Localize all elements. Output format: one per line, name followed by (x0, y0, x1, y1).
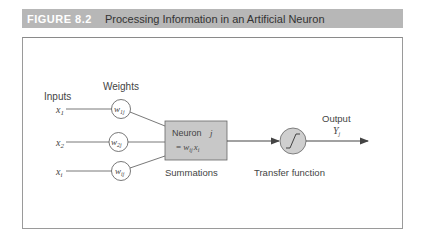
input-x2: x2 (55, 137, 64, 150)
input-xi: xi (55, 166, 62, 179)
transfer-function-label: Transfer function (254, 167, 325, 178)
weights-label: Weights (103, 81, 139, 92)
weight-line-i (130, 156, 165, 168)
weight-w2j: w2j (109, 133, 128, 152)
svg-text:= wijxi: = wijxi (176, 142, 200, 153)
input-x1: x1 (55, 104, 64, 117)
transfer-function-node (280, 128, 306, 154)
svg-text:x1: x1 (55, 104, 64, 117)
weight-line-1 (130, 112, 165, 126)
svg-text:x2: x2 (55, 137, 64, 150)
weight-wij: wij (112, 162, 131, 181)
svg-text:Neuron: Neuron (172, 128, 202, 138)
output-label: Output (322, 113, 351, 124)
svg-text:j: j (209, 128, 213, 138)
output-symbol: Yj (333, 125, 341, 137)
svg-text:xi: xi (55, 166, 62, 179)
weight-w1j: w1j (112, 100, 131, 119)
inputs-label: Inputs (44, 91, 71, 102)
summations-label: Summations (165, 167, 218, 178)
neuron-diagram: Inputs Weights x1 x2 xi w1j w2j wij Neur… (0, 0, 421, 243)
neuron-box: Neuron j = wijxi (165, 121, 227, 160)
